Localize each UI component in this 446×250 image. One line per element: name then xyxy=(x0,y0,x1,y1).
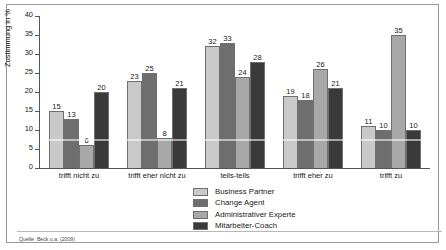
bar-value-label: 8 xyxy=(162,129,166,138)
bar[interactable]: 8 xyxy=(157,138,172,168)
legend-swatch xyxy=(193,199,208,207)
bar[interactable]: 33 xyxy=(220,43,235,168)
bar-value-label: 28 xyxy=(253,53,261,62)
bar-value-label: 11 xyxy=(365,117,373,126)
legend-swatch xyxy=(193,222,208,230)
bar-value-label: 33 xyxy=(223,34,231,43)
bar-group: 19182621 xyxy=(274,16,352,168)
bar-value-label: 21 xyxy=(331,79,339,88)
bar-value-label: 23 xyxy=(130,72,138,81)
bar-value-label: 18 xyxy=(301,91,309,100)
bar-value-label: 25 xyxy=(145,64,153,73)
x-axis-line xyxy=(39,168,430,169)
source-divider xyxy=(17,231,442,232)
bar[interactable]: 19 xyxy=(283,96,298,168)
x-axis-category-label: teils-teils xyxy=(196,171,274,181)
bar[interactable]: 25 xyxy=(142,73,157,168)
bar-value-label: 26 xyxy=(316,60,324,69)
bar[interactable]: 21 xyxy=(328,88,343,168)
x-axis-category-label: trifft nicht zu xyxy=(40,171,118,181)
y-tick-label-10: 10 xyxy=(25,124,33,134)
y-tick-label-40: 40 xyxy=(25,10,33,20)
bar[interactable]: 10 xyxy=(406,130,421,168)
legend-item[interactable]: Change Agent xyxy=(193,198,296,210)
plot-area: 40 35 30 25 20 15 10 5 0 151362023258213… xyxy=(39,16,430,168)
bar-value-label: 32 xyxy=(208,37,216,46)
bar-value-label: 10 xyxy=(409,121,417,130)
source-note: Quelle: Beck u.a. (2009) xyxy=(19,235,75,243)
bar[interactable]: 6 xyxy=(79,145,94,168)
y-tick-label-20: 20 xyxy=(25,86,33,96)
legend-label: Mitarbeiter-Coach xyxy=(215,221,277,231)
legend-swatch xyxy=(193,211,208,219)
figure: Zustimmung in % 40 35 30 25 20 15 10 5 0… xyxy=(0,0,446,250)
y-tick-label-35: 35 xyxy=(25,29,33,39)
bar-value-label: 35 xyxy=(394,26,402,35)
bar[interactable]: 10 xyxy=(376,130,391,168)
bar-value-label: 15 xyxy=(52,102,60,111)
bar-value-label: 6 xyxy=(84,136,88,145)
bar-group: 32332428 xyxy=(196,16,274,168)
legend-item[interactable]: Business Partner xyxy=(193,186,296,198)
bar[interactable]: 28 xyxy=(250,62,265,168)
x-axis-category-label: trifft eher zu xyxy=(274,171,352,181)
bar-group: 1513620 xyxy=(40,16,118,168)
bar-value-label: 20 xyxy=(97,83,105,92)
bar-value-label: 13 xyxy=(67,110,75,119)
y-tick-label-5: 5 xyxy=(29,143,33,153)
chart-frame: Zustimmung in % 40 35 30 25 20 15 10 5 0… xyxy=(6,4,439,243)
bar-group: 2325821 xyxy=(118,16,196,168)
bar-value-label: 21 xyxy=(175,79,183,88)
bar-groups: 15136202325821323324281918262111103510 xyxy=(40,16,430,168)
y-tick-label-25: 25 xyxy=(25,67,33,77)
y-tick-label-30: 30 xyxy=(25,48,33,58)
bar[interactable]: 11 xyxy=(361,126,376,168)
legend-item[interactable]: Administrativer Experte xyxy=(193,209,296,221)
bar[interactable]: 24 xyxy=(235,77,250,168)
x-axis-category-label: trifft eher nicht zu xyxy=(118,171,196,181)
bar[interactable]: 35 xyxy=(391,35,406,168)
bar-value-label: 24 xyxy=(238,68,246,77)
bar-value-label: 10 xyxy=(379,121,387,130)
bar-group: 11103510 xyxy=(352,16,430,168)
bar[interactable]: 15 xyxy=(49,111,64,168)
legend-label: Business Partner xyxy=(215,187,274,197)
bar-value-label: 19 xyxy=(286,87,294,96)
bar[interactable]: 26 xyxy=(313,69,328,168)
bar[interactable]: 20 xyxy=(94,92,109,168)
bar[interactable]: 21 xyxy=(172,88,187,168)
x-axis-category-labels: trifft nicht zutrifft eher nicht zuteils… xyxy=(40,171,430,181)
y-tick-label-0: 0 xyxy=(29,162,33,172)
legend-label: Administrativer Experte xyxy=(215,210,296,220)
bar[interactable]: 18 xyxy=(298,100,313,168)
y-axis-title: Zustimmung in % xyxy=(3,9,12,67)
x-axis-category-label: trifft zu xyxy=(352,171,430,181)
y-tick-label-15: 15 xyxy=(25,105,33,115)
legend: Business PartnerChange AgentAdministrati… xyxy=(193,186,296,232)
bar[interactable]: 32 xyxy=(205,46,220,168)
bar[interactable]: 23 xyxy=(127,81,142,168)
bar[interactable]: 13 xyxy=(64,119,79,168)
legend-swatch xyxy=(193,188,208,196)
legend-label: Change Agent xyxy=(215,198,264,208)
